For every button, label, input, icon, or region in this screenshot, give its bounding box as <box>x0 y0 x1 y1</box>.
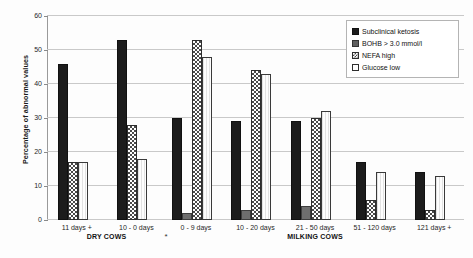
y-tick-mark-0 <box>44 220 48 221</box>
bar-group <box>107 16 167 220</box>
bar-nefa <box>425 210 435 220</box>
legend-label: Glucose low <box>362 64 400 71</box>
x-tick-label: 11 days + <box>47 224 107 231</box>
bar-group <box>47 16 107 220</box>
x-tick-label: 0 - 9 days <box>166 224 226 231</box>
legend-swatch-icon <box>352 52 359 59</box>
y-tick-label-60: 60 <box>26 12 42 19</box>
bar-nefa <box>311 118 321 220</box>
x-section-label: DRY COWS <box>47 233 166 240</box>
y-tick-label-0: 0 <box>26 216 42 223</box>
legend-swatch-icon <box>352 28 359 35</box>
x-tick-label: 21 - 50 days <box>285 224 345 231</box>
bar-nefa <box>192 40 202 220</box>
bar-glu <box>435 176 445 220</box>
legend-label: NEFA high <box>362 52 395 59</box>
bar-sk <box>231 121 241 220</box>
x-tick-label: 121 days + <box>404 224 464 231</box>
bar-sk <box>58 64 68 220</box>
bar-glu <box>78 162 88 220</box>
bar-nefa <box>127 125 137 220</box>
bar-bohb <box>182 213 192 220</box>
x-section-label: MILKING COWS <box>166 233 464 240</box>
y-tick-label-50: 50 <box>26 46 42 53</box>
legend-item[interactable]: Subclinical ketosis <box>352 25 454 37</box>
bar-nefa <box>251 70 261 220</box>
bar-glu <box>202 57 212 220</box>
bar-group <box>166 16 226 220</box>
bar-sk <box>172 118 182 220</box>
y-tick-label-20: 20 <box>26 148 42 155</box>
chart-legend: Subclinical ketosisBOHB > 3.0 mmol/lNEFA… <box>346 20 459 78</box>
y-tick-label-10: 10 <box>26 182 42 189</box>
bar-nefa <box>366 200 376 220</box>
bar-sk <box>291 121 301 220</box>
x-tick-label: 10 - 0 days <box>107 224 167 231</box>
legend-item[interactable]: NEFA high <box>352 49 454 61</box>
legend-label: BOHB > 3.0 mmol/l <box>362 40 422 47</box>
bar-glu <box>376 172 386 220</box>
bar-sk <box>415 172 425 220</box>
bar-bohb <box>241 210 251 220</box>
legend-swatch-icon <box>352 64 359 71</box>
significance-asterisk: * <box>161 232 171 241</box>
legend-item[interactable]: BOHB > 3.0 mmol/l <box>352 37 454 49</box>
x-tick-label: 51 - 120 days <box>345 224 405 231</box>
bar-nefa <box>68 162 78 220</box>
legend-item[interactable]: Glucose low <box>352 61 454 73</box>
bar-glu <box>261 74 271 220</box>
bar-chart: Percentage of abnormal values 0102030405… <box>0 0 473 258</box>
legend-label: Subclinical ketosis <box>362 28 419 35</box>
bar-group <box>285 16 345 220</box>
bar-sk <box>356 162 366 220</box>
legend-swatch-icon <box>352 40 359 47</box>
y-tick-label-30: 30 <box>26 114 42 121</box>
bar-glu <box>137 159 147 220</box>
y-tick-label-40: 40 <box>26 80 42 87</box>
bar-glu <box>321 111 331 220</box>
bar-bohb <box>301 206 311 220</box>
bar-group <box>226 16 286 220</box>
x-tick-label: 10 - 20 days <box>226 224 286 231</box>
bar-sk <box>117 40 127 220</box>
